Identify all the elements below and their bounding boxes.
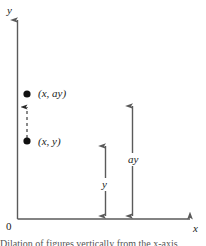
source-point-label: (x, y)	[38, 136, 61, 147]
source-point-marker	[23, 137, 30, 144]
origin-label: 0	[6, 221, 12, 232]
figure-caption: Dilation of figures vertically from the …	[0, 238, 206, 246]
ay-measure-label: ay	[127, 153, 139, 166]
dilation-diagram: y x 0 (x, ay) (x, y) y ay Dilation of fi…	[0, 0, 206, 246]
image-point-marker	[23, 90, 30, 97]
diagram-canvas	[0, 0, 206, 246]
image-point-label: (x, ay)	[38, 88, 66, 99]
x-axis-label: x	[193, 223, 198, 234]
y-axis-label: y	[7, 5, 12, 16]
y-measure-label: y	[101, 178, 108, 191]
